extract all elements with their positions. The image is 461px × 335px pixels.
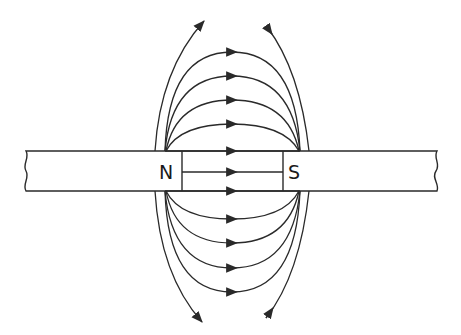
north-pole-label: N [159,161,173,183]
bottom-field-arcs [165,191,300,292]
magnet-diagram: N S [0,0,461,335]
south-pole-label: S [288,161,300,183]
outer-line-bottom-left [155,191,202,322]
top-field-arcs [165,52,300,151]
bar-magnet [25,151,438,191]
outer-line-top-left [155,21,204,151]
bar-outline [25,151,438,191]
